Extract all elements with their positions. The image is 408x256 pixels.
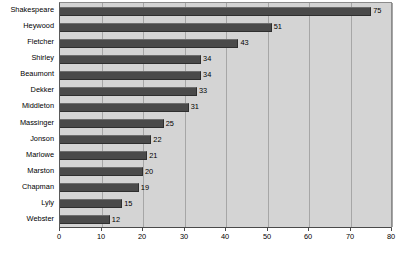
- category-label: Beaumont: [20, 70, 54, 78]
- category-label: Fletcher: [27, 38, 54, 46]
- x-axis-tick-label: 60: [304, 232, 312, 241]
- x-axis-tick: [225, 228, 226, 231]
- bar-value-label: 34: [203, 71, 211, 79]
- category-label: Middleton: [22, 102, 54, 110]
- bar: [60, 183, 139, 192]
- plot-area: 7551433434333125222120191512: [59, 2, 392, 228]
- bar: [60, 87, 197, 96]
- x-axis: 01020304050607080: [59, 228, 393, 256]
- x-axis-tick-label: 10: [97, 232, 105, 241]
- x-axis-tick-label: 0: [57, 232, 61, 241]
- bar-value-label: 25: [166, 120, 174, 128]
- x-axis-tick-label: 50: [263, 232, 271, 241]
- category-label: Marlowe: [26, 151, 54, 159]
- bar-value-label: 31: [191, 103, 199, 111]
- x-axis-tick: [267, 228, 268, 231]
- bar: [60, 39, 238, 48]
- category-label: Massinger: [20, 119, 54, 127]
- x-axis-tick-label: 20: [138, 232, 146, 241]
- bar-value-label: 20: [145, 168, 153, 176]
- category-label: Lyly: [41, 199, 54, 207]
- bar: [60, 167, 143, 176]
- x-axis-tick: [184, 228, 185, 231]
- bar-value-label: 51: [274, 23, 282, 31]
- bar-value-label: 12: [112, 216, 120, 224]
- x-axis-tick: [101, 228, 102, 231]
- bar: [60, 215, 110, 224]
- bar: [60, 23, 272, 32]
- x-axis-tick-label: 30: [180, 232, 188, 241]
- bar-value-label: 43: [240, 39, 248, 47]
- category-label: Shirley: [31, 54, 54, 62]
- category-label: Marston: [27, 167, 54, 175]
- x-axis-tick: [59, 228, 60, 231]
- x-axis-tick-label: 70: [346, 232, 354, 241]
- bar-chart: ShakespeareHeywoodFletcherShirleyBeaumon…: [0, 0, 408, 256]
- bar: [60, 135, 151, 144]
- bar-value-label: 34: [203, 55, 211, 63]
- category-label: Jonson: [30, 135, 54, 143]
- x-axis-tick: [350, 228, 351, 231]
- bar-series: 7551433434333125222120191512: [60, 3, 391, 227]
- bar-value-label: 15: [124, 200, 132, 208]
- bar: [60, 199, 122, 208]
- bar-value-label: 33: [199, 87, 207, 95]
- category-label: Chapman: [22, 183, 54, 191]
- bar: [60, 71, 201, 80]
- bar: [60, 119, 164, 128]
- category-label: Heywood: [23, 22, 54, 30]
- gridline: [392, 3, 393, 227]
- x-axis-tick-label: 80: [387, 232, 395, 241]
- bar-value-label: 22: [153, 136, 161, 144]
- x-axis-tick: [391, 228, 392, 231]
- bar-value-label: 19: [141, 184, 149, 192]
- bar: [60, 103, 189, 112]
- bar: [60, 151, 147, 160]
- x-axis-tick-label: 40: [221, 232, 229, 241]
- bar: [60, 7, 371, 16]
- bar-value-label: 21: [149, 152, 157, 160]
- bar-value-label: 75: [373, 7, 381, 15]
- x-axis-tick: [142, 228, 143, 231]
- category-label: Dekker: [31, 86, 54, 94]
- category-label: Webster: [27, 215, 54, 223]
- bar: [60, 55, 201, 64]
- x-axis-tick: [308, 228, 309, 231]
- category-label: Shakespeare: [10, 6, 54, 14]
- category-axis-labels: ShakespeareHeywoodFletcherShirleyBeaumon…: [0, 2, 56, 228]
